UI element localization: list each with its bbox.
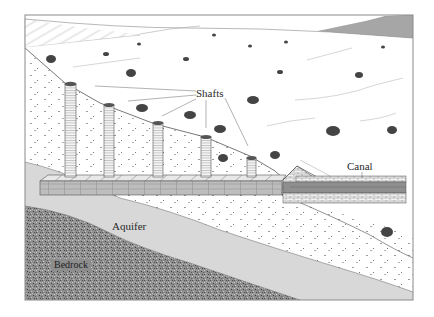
shrub bbox=[218, 154, 228, 162]
shrub bbox=[284, 41, 288, 44]
shafts-label: Shafts bbox=[196, 88, 224, 99]
shrub bbox=[277, 70, 283, 74]
shrub bbox=[248, 45, 252, 48]
shrub bbox=[214, 125, 226, 133]
qanat-diagram: Shafts Canal Aquifer Bedrock bbox=[0, 0, 434, 317]
shaft-4 bbox=[201, 135, 212, 177]
shrub bbox=[137, 43, 141, 46]
shrub bbox=[46, 55, 56, 63]
canal-label: Canal bbox=[347, 161, 373, 172]
shrub bbox=[126, 69, 136, 77]
shrub bbox=[184, 111, 196, 119]
shrub bbox=[136, 104, 148, 112]
qanat-tunnel bbox=[40, 175, 286, 195]
shrub bbox=[212, 34, 216, 37]
shaft-1 bbox=[65, 82, 77, 177]
shaft-3 bbox=[153, 121, 164, 177]
shrub bbox=[326, 126, 340, 136]
shrub bbox=[103, 52, 109, 56]
shrub bbox=[381, 46, 385, 49]
shrub bbox=[247, 96, 259, 104]
shrub bbox=[355, 72, 363, 78]
shrub bbox=[183, 57, 189, 61]
shaft-2 bbox=[104, 103, 115, 177]
shrub bbox=[381, 227, 393, 237]
shaft-5 bbox=[247, 156, 257, 177]
shrub bbox=[270, 151, 280, 159]
shrub bbox=[387, 126, 397, 134]
aquifer-label: Aquifer bbox=[112, 221, 146, 232]
bedrock-label: Bedrock bbox=[51, 259, 91, 271]
